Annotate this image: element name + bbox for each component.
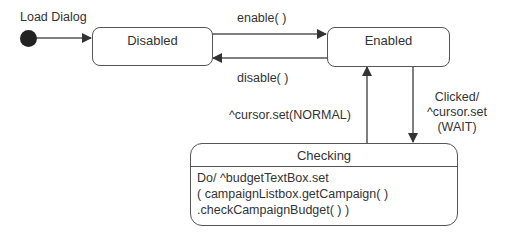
state-checking-name: Checking bbox=[191, 144, 457, 166]
activity-line-1: Do/ ^budgetTextBox.set bbox=[197, 170, 451, 186]
state-checking: Checking Do/ ^budgetTextBox.set ( campai… bbox=[190, 143, 458, 226]
state-checking-activity: Do/ ^budgetTextBox.set ( campaignListbox… bbox=[191, 167, 457, 221]
activity-line-2: ( campaignListbox.getCampaign( ) bbox=[197, 186, 451, 202]
state-disabled: Disabled bbox=[92, 27, 213, 66]
state-disabled-name: Disabled bbox=[93, 28, 212, 48]
activity-line-3: .checkCampaignBudget( ) ) bbox=[197, 202, 451, 218]
initial-state-dot bbox=[20, 30, 37, 47]
state-enabled-name: Enabled bbox=[328, 28, 449, 48]
transition-clicked-label: Clicked/ ^cursor.set (WAIT) bbox=[421, 90, 493, 135]
transition-clicked-label-line-1: Clicked/ bbox=[421, 90, 493, 105]
transition-clicked-label-line-2: ^cursor.set bbox=[421, 105, 493, 120]
transition-enable-label: enable( ) bbox=[237, 11, 286, 26]
initial-transition-label: Load Dialog bbox=[20, 10, 87, 25]
state-enabled: Enabled bbox=[327, 27, 450, 67]
transition-disable-label: disable( ) bbox=[237, 71, 288, 86]
transition-cursor-normal-label: ^cursor.set(NORMAL) bbox=[229, 108, 351, 123]
transition-clicked-label-line-3: (WAIT) bbox=[421, 120, 493, 135]
